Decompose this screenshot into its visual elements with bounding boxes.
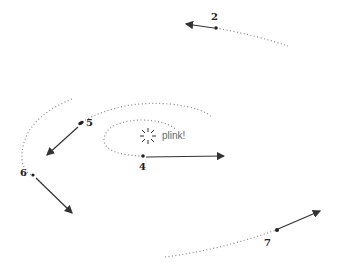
collision-burst-icon <box>140 128 156 144</box>
point-4 <box>141 154 145 158</box>
trail-7 <box>165 230 276 257</box>
point-label-6: 6 <box>20 168 27 178</box>
velocity-arrow-4 <box>146 156 224 157</box>
point-5 <box>78 120 85 126</box>
point-label-5: 5 <box>86 118 93 128</box>
collision-annotation: plink! <box>162 131 185 141</box>
velocity-arrow-5 <box>47 127 78 155</box>
point-label-2: 2 <box>211 12 218 22</box>
velocity-arrow-2 <box>186 24 214 28</box>
point-label-4: 4 <box>139 162 146 172</box>
trail-5 <box>82 103 212 122</box>
velocity-arrow-7 <box>278 211 320 229</box>
trail-6 <box>22 99 72 175</box>
diagram-canvas: 2 5 4 6 7 plink! <box>0 0 339 269</box>
point-label-7: 7 <box>264 238 271 248</box>
velocity-arrow-6 <box>36 178 72 213</box>
point-7 <box>275 228 279 232</box>
point-2 <box>214 26 218 30</box>
trail-2 <box>216 28 288 46</box>
point-6 <box>31 173 34 176</box>
